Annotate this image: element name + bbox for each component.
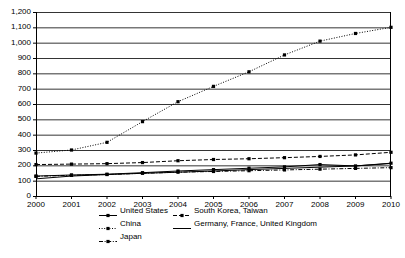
y-axis-tick-label: 600 xyxy=(0,100,31,108)
y-axis-tick-label: 400 xyxy=(0,131,31,139)
line-plain-solid-icon xyxy=(172,219,192,228)
y-axis-tick-label: 100 xyxy=(0,177,31,185)
y-axis-tick-label: 1,200 xyxy=(0,8,31,16)
y-axis-ticks xyxy=(33,13,36,197)
line-marker-dashed-icon xyxy=(172,206,192,215)
chart-legend: United StatesSouth Korea, TaiwanChinaGer… xyxy=(0,204,399,256)
series-line xyxy=(34,166,392,178)
y-axis-tick-label: 300 xyxy=(0,146,31,154)
y-axis-tick-label: 0 xyxy=(0,192,31,200)
legend-item[interactable]: South Korea, Taiwan xyxy=(172,206,268,215)
legend-item-label: China xyxy=(120,219,141,228)
y-axis-tick-label: 1,100 xyxy=(0,23,31,31)
legend-item-label: Germany, France, United Kingdom xyxy=(194,219,317,228)
y-axis-tick-label: 1,000 xyxy=(0,39,31,47)
y-axis-tick-label: 900 xyxy=(0,54,31,62)
line-marker-solid-icon xyxy=(98,206,118,215)
line-marker-dashdot-icon xyxy=(98,232,118,241)
legend-item[interactable]: United States xyxy=(98,206,168,215)
line-marker-dotted-icon xyxy=(98,219,118,228)
y-axis-tick-label: 200 xyxy=(0,161,31,169)
legend-item-label: Japan xyxy=(120,232,142,241)
legend-item[interactable]: Japan xyxy=(98,232,142,241)
legend-item-label: United States xyxy=(120,206,168,215)
legend-item-label: South Korea, Taiwan xyxy=(194,206,268,215)
y-axis-tick-label: 800 xyxy=(0,69,31,77)
y-axis-tick-label: 500 xyxy=(0,115,31,123)
legend-item[interactable]: Germany, France, United Kingdom xyxy=(172,219,317,228)
legend-item[interactable]: China xyxy=(98,219,141,228)
y-axis-tick-label: 700 xyxy=(0,85,31,93)
series-line xyxy=(34,151,392,166)
